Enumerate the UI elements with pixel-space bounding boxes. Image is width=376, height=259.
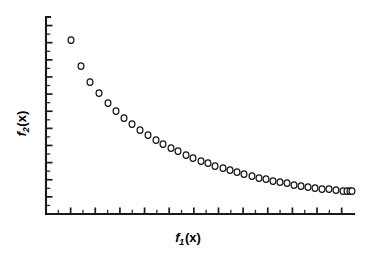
data-point-marker bbox=[205, 160, 211, 167]
data-point-marker bbox=[326, 186, 332, 193]
data-point-marker bbox=[168, 145, 174, 152]
data-point-marker bbox=[284, 180, 290, 187]
data-point-marker bbox=[277, 179, 283, 186]
data-point-marker bbox=[319, 186, 325, 193]
data-point-marker bbox=[256, 175, 262, 182]
y-axis-label-arg: (x) bbox=[14, 111, 29, 127]
data-point-marker bbox=[129, 121, 135, 128]
data-point-marker bbox=[87, 79, 93, 86]
data-point-marker bbox=[349, 188, 355, 195]
data-point-marker bbox=[105, 100, 111, 107]
data-point-marker bbox=[137, 127, 143, 134]
data-point-marker bbox=[113, 108, 119, 115]
data-point-marker bbox=[263, 176, 269, 183]
data-point-marker bbox=[175, 148, 181, 155]
data-point-marker bbox=[153, 137, 159, 144]
data-point-series bbox=[68, 37, 355, 195]
data-point-marker bbox=[270, 178, 276, 185]
figure-container: f1(x) f2(x) bbox=[0, 0, 376, 259]
scatter-plot bbox=[0, 0, 376, 259]
data-point-marker bbox=[249, 173, 255, 180]
data-point-marker bbox=[298, 183, 304, 190]
x-axis-label-subscript: 1 bbox=[179, 236, 184, 247]
y-axis-label-subscript: 2 bbox=[20, 127, 31, 132]
data-point-marker bbox=[121, 115, 127, 122]
data-point-marker bbox=[305, 184, 311, 191]
data-point-marker bbox=[291, 182, 297, 189]
data-point-marker bbox=[220, 165, 226, 172]
data-point-marker bbox=[212, 163, 218, 170]
y-axis-label-f: f bbox=[14, 132, 29, 136]
x-axis-label-arg: (x) bbox=[185, 230, 201, 245]
data-point-marker bbox=[183, 152, 189, 159]
data-point-marker bbox=[241, 171, 247, 178]
data-point-marker bbox=[227, 167, 233, 174]
data-point-marker bbox=[78, 63, 84, 70]
x-axis-label: f1(x) bbox=[0, 230, 376, 245]
data-point-marker bbox=[333, 187, 339, 194]
data-point-marker bbox=[198, 158, 204, 165]
data-point-marker bbox=[68, 37, 74, 44]
data-point-marker bbox=[96, 90, 102, 97]
data-point-marker bbox=[160, 141, 166, 148]
y-axis-label: f2(x) bbox=[14, 84, 29, 164]
data-point-marker bbox=[145, 132, 151, 139]
data-point-marker bbox=[190, 155, 196, 162]
data-point-marker bbox=[312, 185, 318, 192]
data-point-marker bbox=[234, 169, 240, 176]
